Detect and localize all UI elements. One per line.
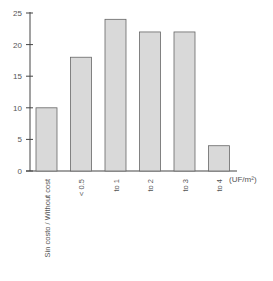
axes xyxy=(26,12,237,171)
bar xyxy=(174,32,195,171)
x-category-label: to 2 xyxy=(146,179,155,192)
x-category-label: Sin costo / Without cost xyxy=(43,178,52,257)
bar xyxy=(140,32,161,171)
x-category-label: to 3 xyxy=(181,179,190,192)
y-tick-label: 10 xyxy=(13,104,22,113)
y-tick-label: 20 xyxy=(13,41,22,50)
bars xyxy=(36,19,230,171)
y-tick-label: 0 xyxy=(18,167,23,176)
bar xyxy=(105,19,126,171)
y-tick-label: 5 xyxy=(18,135,23,144)
x-category-label: < 0.5 xyxy=(77,179,86,196)
x-category-label: to 4 xyxy=(215,179,224,192)
bar-chart: 0510152025Sin costo / Without cost< 0.5t… xyxy=(0,0,273,281)
x-category-label: to 1 xyxy=(112,179,121,192)
bar xyxy=(209,146,230,171)
bar xyxy=(36,108,57,171)
x-unit-label: (UF/m²) xyxy=(229,175,257,184)
bar xyxy=(71,57,92,171)
y-tick-label: 25 xyxy=(13,9,22,18)
y-tick-label: 15 xyxy=(13,72,22,81)
